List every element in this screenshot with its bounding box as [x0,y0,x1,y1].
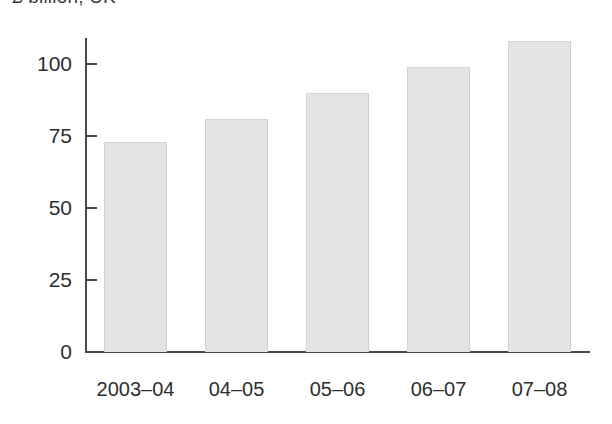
y-axis-line [85,38,87,353]
x-tick-label: 04–05 [209,378,265,401]
bar [407,67,470,352]
bar [508,41,571,352]
x-tick-label: 2003–04 [97,378,175,401]
bar-chart-plot-area: 0255075100 2003–0404–0505–0606–0707–08 [0,0,612,424]
y-tick-mark [87,207,97,209]
y-tick-mark [87,351,97,353]
y-tick-label: 75 [8,124,72,148]
y-tick-label: 100 [8,52,72,76]
y-tick-mark [87,135,97,137]
x-tick-label: 07–08 [512,378,568,401]
y-tick-mark [87,279,97,281]
bar [306,93,369,352]
bar [205,119,268,352]
y-tick-label: 50 [8,196,72,220]
bar [104,142,167,352]
x-tick-label: 05–06 [310,378,366,401]
y-tick-label: 0 [8,340,72,364]
x-tick-label: 06–07 [411,378,467,401]
y-tick-label: 25 [8,268,72,292]
y-tick-mark [87,63,97,65]
